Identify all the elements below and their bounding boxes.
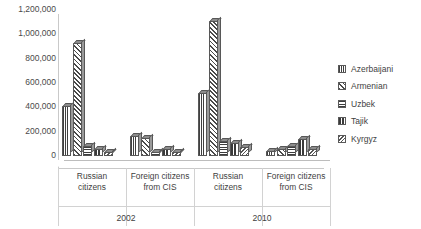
legend-swatch-icon (338, 135, 346, 143)
legend-item-armenian[interactable]: Armenian (338, 78, 420, 96)
legend-label: Uzbek (351, 99, 375, 109)
y-axis: 1,200,0001,000,000800,000600,000400,0002… (2, 0, 56, 229)
y-axis-tick-label: 800,000 (2, 54, 56, 63)
bar-azerbaijani-1 (130, 136, 139, 156)
bar-tajik-1 (162, 149, 171, 156)
value-axis-line (58, 14, 59, 160)
chart-legend: AzerbaijaniArmenianUzbekTajikKyrgyz (338, 60, 420, 148)
legend-item-azerbaijani[interactable]: Azerbaijani (338, 60, 420, 78)
category-axis: RussiancitizensForeign citizensfrom CISR… (58, 168, 330, 229)
legend-item-uzbek[interactable]: Uzbek (338, 95, 420, 113)
legend-label: Kyrgyz (351, 134, 377, 144)
legend-label: Armenian (351, 81, 387, 91)
bar-azerbaijani-3 (266, 151, 275, 156)
bar-uzbek-2 (219, 141, 228, 156)
bar-armenian-1 (141, 138, 150, 156)
y-axis-tick-label: 0 (2, 151, 56, 160)
bar-kyrgyz-3 (308, 149, 317, 156)
y-axis-tick-label: 200,000 (2, 127, 56, 136)
bar-azerbaijani-2 (198, 93, 207, 156)
bar-group (266, 9, 328, 156)
legend-label: Tajik (351, 116, 368, 126)
bar-kyrgyz-1 (172, 152, 181, 156)
bar-tajik-2 (230, 143, 239, 156)
group-label-year: 2002 (58, 208, 194, 228)
bar-armenian-3 (277, 149, 286, 156)
category-label: Russiancitizens (58, 168, 126, 204)
legend-item-kyrgyz[interactable]: Kyrgyz (338, 130, 420, 148)
group-label-year: 2010 (194, 208, 330, 228)
bar-kyrgyz-0 (104, 152, 113, 156)
bar-tajik-3 (298, 139, 307, 156)
bar-uzbek-3 (287, 146, 296, 156)
legend-swatch-icon (338, 100, 346, 108)
bar-group (198, 9, 260, 156)
bar-kyrgyz-2 (240, 147, 249, 156)
axis-separator (330, 168, 331, 226)
legend-swatch-icon (338, 117, 346, 125)
legend-label: Azerbaijani (351, 64, 393, 74)
category-label: Foreign citizensfrom CIS (126, 168, 194, 204)
bar-armenian-2 (209, 21, 218, 156)
bar-uzbek-0 (83, 146, 92, 156)
axis-separator (58, 206, 331, 207)
legend-item-tajik[interactable]: Tajik (338, 113, 420, 131)
bar-armenian-0 (73, 43, 82, 156)
bar-group (62, 9, 124, 156)
legend-swatch-icon (338, 65, 346, 73)
bar-group (130, 9, 192, 156)
bar-tajik-0 (94, 149, 103, 156)
category-label: Foreign citizensfrom CIS (262, 168, 330, 204)
column-chart: 1,200,0001,000,000800,000600,000400,0002… (0, 0, 421, 229)
y-axis-tick-label: 600,000 (2, 78, 56, 87)
plot-area (58, 9, 330, 165)
y-axis-tick-label: 1,200,000 (2, 5, 56, 14)
y-axis-tick-label: 400,000 (2, 102, 56, 111)
bar-azerbaijani-0 (62, 106, 71, 156)
category-label: Russiancitizens (194, 168, 262, 204)
legend-swatch-icon (338, 82, 346, 90)
y-axis-tick-label: 1,000,000 (2, 29, 56, 38)
bar-uzbek-1 (151, 152, 160, 156)
